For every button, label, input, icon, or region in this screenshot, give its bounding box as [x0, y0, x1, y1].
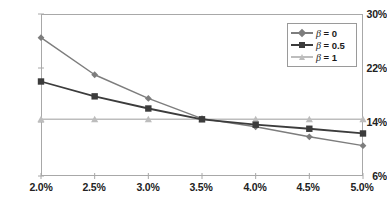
legend-item-beta-05[interactable]: β = 0.5 — [291, 39, 352, 51]
legend: β = 0 β = 0.5 β = 1 — [287, 23, 357, 67]
legend-item-beta-1[interactable]: β = 1 — [291, 51, 352, 63]
legend-marker-square-icon — [291, 39, 313, 51]
legend-item-beta-0[interactable]: β = 0 — [291, 27, 352, 39]
legend-label-beta-1: β = 1 — [313, 52, 337, 63]
legend-marker-triangle-icon — [291, 51, 313, 63]
line-chart: 30% 22% 14% 6% 2.0% 2.5% 3.0% 3.5% 4.0% … — [0, 0, 387, 215]
legend-label-beta-05: β = 0.5 — [313, 40, 345, 51]
legend-label-beta-0: β = 0 — [313, 28, 337, 39]
legend-marker-diamond-icon — [291, 27, 313, 39]
